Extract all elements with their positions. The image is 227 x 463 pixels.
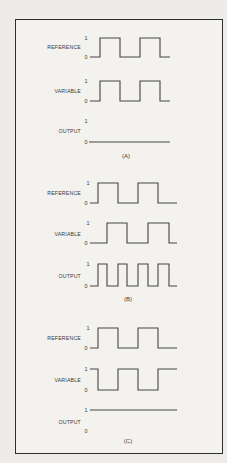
signal-label: REFERENCE: [47, 190, 81, 196]
panel-caption: (C): [124, 438, 132, 444]
variable-waveform: [90, 223, 177, 243]
panel-b-reference: REFERENCE 1 0: [47, 180, 177, 206]
level-low-label: 0: [84, 139, 87, 145]
level-high-label: 1: [86, 220, 89, 226]
level-low-label: 0: [84, 54, 87, 60]
panel-caption: (A): [122, 153, 130, 159]
signal-label: REFERENCE: [47, 44, 81, 50]
signal-label: REFERENCE: [47, 335, 81, 341]
level-high-label: 1: [84, 118, 87, 124]
panel-a-variable: VARIABLE 1 0: [54, 78, 170, 104]
panel-c: REFERENCE 1 0 VARIABLE 1 0 OUTPUT 1 0 (C…: [47, 325, 177, 444]
level-high-label: 1: [84, 407, 87, 413]
signal-label: OUTPUT: [58, 419, 81, 425]
level-low-label: 0: [84, 345, 87, 351]
panel-caption: (B): [124, 296, 132, 302]
panel-a-reference: REFERENCE 1 0: [47, 35, 170, 60]
panel-c-output: OUTPUT 1 0: [58, 407, 177, 434]
level-high-label: 1: [86, 180, 89, 186]
level-low-label: 0: [84, 200, 87, 206]
panel-c-variable: VARIABLE 1 0: [54, 366, 177, 393]
level-low-label: 0: [84, 387, 87, 393]
panel-a-output: OUTPUT 1 0: [58, 118, 170, 145]
level-high-label: 1: [84, 366, 87, 372]
signal-label: VARIABLE: [54, 377, 81, 383]
output-waveform: [90, 264, 177, 286]
panel-b-variable: VARIABLE 1 0: [54, 220, 177, 246]
level-high-label: 1: [84, 78, 87, 84]
panel-c-reference: REFERENCE 1 0: [47, 325, 177, 351]
signal-label: VARIABLE: [54, 231, 81, 237]
variable-waveform: [90, 81, 170, 101]
reference-waveform: [90, 183, 177, 203]
level-low-label: 0: [84, 428, 87, 434]
level-high-label: 1: [86, 325, 89, 331]
phase-detector-timing-diagram: REFERENCE 1 0 VARIABLE 1 0 OUTPUT 1 0 (A…: [0, 0, 227, 463]
level-low-label: 0: [84, 283, 87, 289]
level-high-label: 1: [84, 35, 87, 41]
level-low-label: 0: [84, 240, 87, 246]
signal-label: OUTPUT: [58, 128, 81, 134]
level-high-label: 1: [86, 261, 89, 267]
panel-b: REFERENCE 1 0 VARIABLE 1 0 OUTPUT 1 0 (B…: [47, 180, 177, 302]
panel-b-output: OUTPUT 1 0: [58, 261, 177, 289]
level-low-label: 0: [84, 98, 87, 104]
signal-label: OUTPUT: [58, 273, 81, 279]
panel-a: REFERENCE 1 0 VARIABLE 1 0 OUTPUT 1 0 (A…: [47, 35, 170, 159]
variable-waveform: [90, 369, 177, 390]
signal-label: VARIABLE: [54, 88, 81, 94]
reference-waveform: [90, 328, 177, 348]
reference-waveform: [90, 38, 170, 57]
